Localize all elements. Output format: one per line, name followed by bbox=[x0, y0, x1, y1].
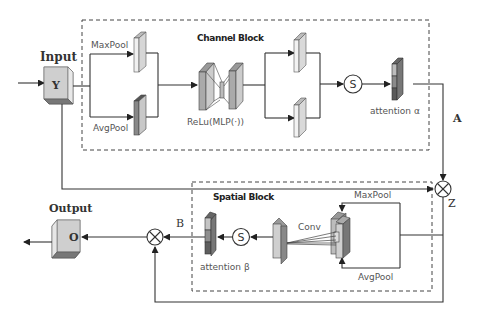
spatial-block-title: Spatial Block bbox=[213, 192, 275, 202]
attention-beta-label: attention β bbox=[200, 262, 250, 272]
mlp-lower-vector bbox=[294, 98, 306, 137]
attention-alpha-label: attention α bbox=[370, 106, 420, 116]
channel-avgpool-vector bbox=[134, 95, 146, 135]
edge-label-b: B bbox=[176, 217, 184, 230]
channel-maxpool-vector bbox=[134, 32, 146, 72]
conv-lines bbox=[287, 232, 336, 245]
spatial-avgpool-label: AvgPool bbox=[358, 272, 393, 282]
input-symbol: Y bbox=[51, 79, 60, 92]
spatial-maxpool-label: MaxPool bbox=[354, 190, 391, 200]
output-symbol: O bbox=[69, 231, 79, 244]
output-title: Output bbox=[49, 202, 93, 215]
mlp-upper-vector bbox=[294, 33, 306, 72]
edge-label-z: Z bbox=[448, 197, 456, 210]
channel-block-title: Channel Block bbox=[197, 33, 265, 43]
edge-label-a: A bbox=[452, 112, 462, 125]
channel-sigmoid-symbol: S bbox=[350, 78, 357, 91]
spatial-sigmoid-symbol: S bbox=[238, 231, 245, 244]
conv-label: Conv bbox=[298, 222, 321, 232]
attention-beta-vector bbox=[205, 212, 216, 256]
mlp-label: ReLu(MLP(·)) bbox=[187, 117, 244, 127]
multiply-2-icon bbox=[147, 229, 163, 245]
edge-a-line bbox=[413, 84, 443, 180]
spatial-avgpool-arrow bbox=[342, 258, 400, 268]
attention-alpha-vector bbox=[392, 58, 403, 100]
channel-avgpool-label: AvgPool bbox=[93, 123, 128, 133]
diagram-canvas: Channel Block Spatial Block Input Y MaxP… bbox=[0, 0, 477, 322]
spatial-pooled-maps bbox=[331, 212, 350, 258]
channel-maxpool-label: MaxPool bbox=[91, 40, 128, 50]
mlp-bottleneck-icon bbox=[199, 63, 243, 110]
spatial-maxpool-arrow bbox=[342, 203, 400, 211]
conv-output-map bbox=[273, 218, 287, 264]
multiply-1-icon bbox=[435, 181, 451, 197]
input-title: Input bbox=[40, 50, 77, 64]
